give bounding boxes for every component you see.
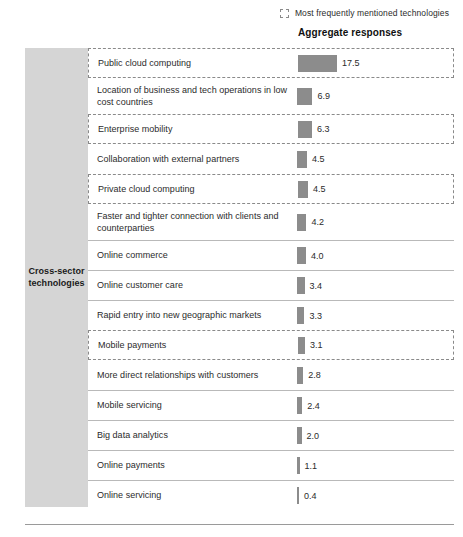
bar-value-label: 3.1 <box>310 340 323 350</box>
bar <box>298 55 337 72</box>
table-row[interactable]: Online payments1.1 <box>88 450 454 480</box>
bar-cell: 0.4 <box>297 481 454 510</box>
bar <box>297 277 305 294</box>
bar-value-label: 4.2 <box>311 217 324 227</box>
bar <box>297 88 312 105</box>
bar <box>297 247 306 264</box>
row-label: Online servicing <box>97 489 297 501</box>
bar-value-label: 2.8 <box>308 370 321 380</box>
bar-cell: 17.5 <box>298 49 453 77</box>
bar-cell: 6.3 <box>298 115 453 143</box>
table-row[interactable]: Enterprise mobility6.3 <box>88 114 454 144</box>
bar <box>297 397 302 414</box>
bar-value-label: 4.0 <box>311 251 324 261</box>
row-label: Faster and tighter connection with clien… <box>97 210 297 234</box>
row-label: Big data analytics <box>97 429 297 441</box>
row-label: Public cloud computing <box>98 57 298 69</box>
bar <box>297 367 303 384</box>
row-label: Online commerce <box>97 249 297 261</box>
bar <box>297 214 306 231</box>
bar-cell: 3.3 <box>297 301 454 330</box>
dashed-square-icon <box>280 9 289 18</box>
bar <box>297 457 300 474</box>
bar-cell: 6.9 <box>297 78 454 114</box>
bar <box>298 337 305 354</box>
bar-value-label: 1.1 <box>305 461 318 471</box>
table-row[interactable]: Online customer care3.4 <box>88 270 454 300</box>
bar <box>297 307 304 324</box>
table-row[interactable]: Online servicing0.4 <box>88 480 454 510</box>
category-panel-label: Cross-sectortechnologies <box>28 266 84 289</box>
bar-value-label: 6.3 <box>317 124 330 134</box>
bar-value-label: 0.4 <box>304 491 317 501</box>
table-row[interactable]: Private cloud computing4.5 <box>88 174 454 204</box>
row-label: Private cloud computing <box>98 183 298 195</box>
bar <box>298 121 312 138</box>
row-label: Enterprise mobility <box>98 123 298 135</box>
footer-divider <box>25 524 454 525</box>
table-row[interactable]: Public cloud computing17.5 <box>88 48 454 78</box>
row-label: Online customer care <box>97 279 297 291</box>
row-label: Location of business and tech operations… <box>97 84 297 108</box>
bar-value-label: 17.5 <box>342 58 360 68</box>
bar <box>297 151 307 168</box>
row-label: More direct relationships with customers <box>97 369 297 381</box>
bar-value-label: 3.4 <box>310 281 323 291</box>
bar-cell: 3.4 <box>297 271 454 300</box>
bar-cell: 4.5 <box>297 144 454 174</box>
legend: Most frequently mentioned technologies <box>280 8 449 18</box>
bar <box>297 427 302 444</box>
bar <box>297 487 299 504</box>
bar-cell: 2.8 <box>297 360 454 390</box>
bar-value-label: 4.5 <box>313 184 326 194</box>
table-row[interactable]: Mobile servicing2.4 <box>88 390 454 420</box>
bar-value-label: 4.5 <box>312 154 325 164</box>
table-row[interactable]: Rapid entry into new geographic markets3… <box>88 300 454 330</box>
bar-value-label: 3.3 <box>309 311 322 321</box>
legend-label: Most frequently mentioned technologies <box>295 8 449 18</box>
column-header: Aggregate responses <box>298 27 402 38</box>
bar-cell: 2.0 <box>297 421 454 450</box>
row-label: Collaboration with external partners <box>97 153 297 165</box>
table-row[interactable]: Faster and tighter connection with clien… <box>88 204 454 240</box>
table-row[interactable]: Mobile payments3.1 <box>88 330 454 360</box>
bar-chart: Public cloud computing17.5Location of bu… <box>88 48 454 510</box>
bar <box>298 181 308 198</box>
bar-cell: 2.4 <box>297 391 454 420</box>
table-row[interactable]: Collaboration with external partners4.5 <box>88 144 454 174</box>
bar-cell: 3.1 <box>298 331 453 359</box>
bar-value-label: 6.9 <box>317 91 330 101</box>
bar-cell: 4.5 <box>298 175 453 203</box>
row-label: Rapid entry into new geographic markets <box>97 309 297 321</box>
bar-value-label: 2.0 <box>307 431 320 441</box>
table-row[interactable]: Location of business and tech operations… <box>88 78 454 114</box>
row-label: Mobile payments <box>98 339 298 351</box>
row-label: Online payments <box>97 459 297 471</box>
category-panel: Cross-sectortechnologies <box>25 48 88 507</box>
bar-cell: 4.0 <box>297 241 454 270</box>
table-row[interactable]: Big data analytics2.0 <box>88 420 454 450</box>
bar-cell: 1.1 <box>297 451 454 480</box>
table-row[interactable]: More direct relationships with customers… <box>88 360 454 390</box>
bar-value-label: 2.4 <box>307 401 320 411</box>
table-row[interactable]: Online commerce4.0 <box>88 240 454 270</box>
row-label: Mobile servicing <box>97 399 297 411</box>
bar-cell: 4.2 <box>297 204 454 240</box>
